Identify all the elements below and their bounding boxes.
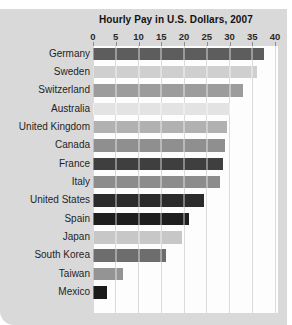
gridline-highlight <box>93 46 94 313</box>
x-axis-tick-label: 0 <box>81 31 105 42</box>
x-axis-tick-label: 25 <box>195 31 219 42</box>
gridline-highlight <box>229 46 231 313</box>
x-axis-tick-label: 20 <box>172 31 196 42</box>
gridline-highlight <box>115 46 117 313</box>
x-axis-tick-label: 15 <box>149 31 173 42</box>
x-axis-tick-label: 30 <box>218 31 242 42</box>
gridline-highlight <box>183 46 185 313</box>
bar-italy <box>93 176 220 189</box>
gridline-highlight <box>206 46 208 313</box>
gridline-highlight <box>274 46 276 313</box>
bar-south-korea <box>93 249 166 262</box>
screenshot-root: { "page": { "background_color": "#ffffff… <box>0 0 292 325</box>
bar-france <box>93 158 223 171</box>
x-axis-tick-label: 10 <box>127 31 151 42</box>
bar-taiwan <box>93 268 123 281</box>
x-axis-tick-label: 40 <box>263 31 287 42</box>
x-axis-tick-label: 5 <box>104 31 128 42</box>
bar-united-states <box>93 194 204 207</box>
gridline-highlight <box>160 46 162 313</box>
bar-mexico <box>93 286 107 299</box>
bar-germany <box>93 48 264 61</box>
plot-area <box>93 46 278 313</box>
bar-sweden <box>93 66 257 79</box>
gridline-highlight <box>251 46 253 313</box>
x-axis: 0510152025303540 <box>0 0 292 46</box>
gridline-highlight <box>138 46 140 313</box>
x-axis-tick-label: 35 <box>240 31 264 42</box>
bar-spain <box>93 213 189 226</box>
